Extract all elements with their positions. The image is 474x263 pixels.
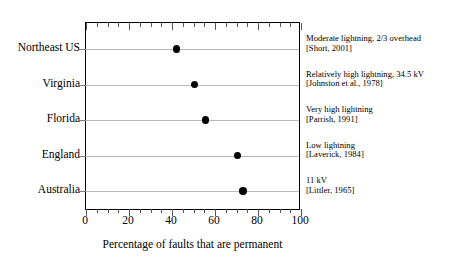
annotation-citation: [Parrish, 1991] <box>306 115 474 125</box>
annotation-column: Moderate lightning, 2/3 overhead[Short, … <box>306 0 474 263</box>
x-tick-label: 0 <box>82 214 88 226</box>
series-annotation: Low lightning[Laverick, 1984] <box>306 141 474 160</box>
chart-figure: Northeast USVirginiaFloridaEnglandAustra… <box>0 0 474 263</box>
series-annotation: Very high lightning[Parrish, 1991] <box>306 105 474 124</box>
annotation-citation: [Laverick, 1984] <box>306 150 474 160</box>
series-annotation: 11 kV[Littler, 1965] <box>306 176 474 195</box>
series-annotation: Relatively high lightning, 34.5 kV[Johns… <box>306 70 474 89</box>
annotation-citation: [Littler, 1965] <box>306 186 474 196</box>
x-tick-label: 40 <box>165 214 177 226</box>
annotation-citation: [Johnston et al., 1978] <box>306 79 474 89</box>
x-tick-label: 20 <box>122 214 134 226</box>
x-tick-label: 80 <box>251 214 263 226</box>
annotation-citation: [Short, 2001] <box>306 44 474 54</box>
x-tick-label: 60 <box>208 214 220 226</box>
x-axis-title: Percentage of faults that are permanent <box>85 238 300 250</box>
series-annotation: Moderate lightning, 2/3 overhead[Short, … <box>306 34 474 53</box>
